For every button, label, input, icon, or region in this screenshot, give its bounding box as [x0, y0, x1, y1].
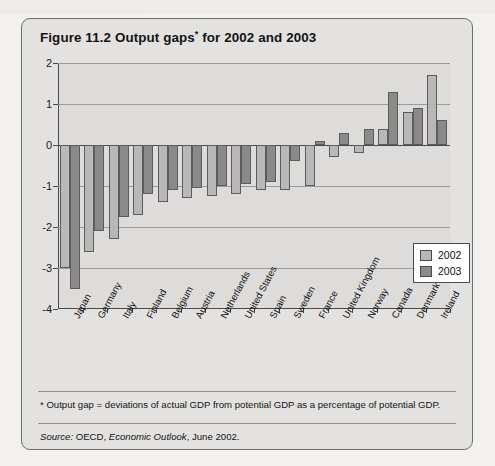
bar-2002-denmark [403, 112, 413, 145]
bar-2002-united-states [231, 145, 241, 194]
bar-2003-canada [388, 92, 398, 145]
bar-2002-sweden [280, 145, 290, 190]
y-axis-tick-mark [53, 104, 58, 105]
bar-2002-canada [378, 129, 388, 145]
figure-title-rest: for 2002 and 2003 [198, 30, 316, 45]
bar-2002-france [305, 145, 315, 186]
figure-title: Figure 11.2 Output gaps* for 2002 and 20… [40, 29, 316, 45]
bar-2003-germany [94, 145, 104, 231]
bar-2002-united-kingdom [329, 145, 339, 157]
bar-2003-france [315, 141, 325, 145]
bar-2002-belgium [158, 145, 168, 202]
legend-item: 2002 [420, 249, 461, 261]
bar-2002-germany [84, 145, 94, 252]
figure-source: Source: OECD, Economic Outlook, June 200… [40, 431, 456, 442]
bar-2003-italy [119, 145, 129, 217]
bar-2003-united-kingdom [339, 133, 349, 145]
bar-2003-ireland [437, 120, 447, 145]
bar-2003-united-states [241, 145, 251, 184]
source-label: Source: [40, 431, 73, 442]
bar-2002-finland [133, 145, 143, 215]
y-axis-tick-mark [53, 63, 58, 64]
legend-item: 2003 [420, 265, 461, 277]
bar-2002-norway [354, 145, 364, 153]
bar-2003-belgium [168, 145, 178, 190]
bar-2003-austria [192, 145, 202, 188]
bar-2002-netherlands [207, 145, 217, 196]
bar-2002-ireland [427, 75, 437, 145]
y-axis-tick-label: -4 [26, 303, 52, 315]
bar-2003-finland [143, 145, 153, 194]
bar-2003-netherlands [217, 145, 227, 186]
source-publication: Economic Outlook [109, 431, 187, 442]
y-axis-tick-mark [53, 309, 58, 310]
y-axis-tick-mark [53, 145, 58, 146]
legend-label-2003: 2003 [438, 265, 461, 277]
page-bleed [0, 0, 495, 14]
y-axis-tick-mark [53, 268, 58, 269]
bar-2003-spain [266, 145, 276, 182]
y-axis-tick-label: -2 [26, 221, 52, 233]
bar-2003-denmark [413, 108, 423, 145]
figure-panel: Figure 11.2 Output gaps* for 2002 and 20… [21, 18, 473, 450]
bar-2002-austria [182, 145, 192, 198]
y-axis-tick-mark [53, 186, 58, 187]
figure-title-main: Figure 11.2 Output gaps [40, 30, 195, 45]
bar-2003-norway [364, 129, 374, 145]
divider-above-footnote [38, 391, 456, 392]
y-axis-tick-label: 1 [26, 98, 52, 110]
legend-swatch-2002 [420, 250, 432, 261]
y-axis-tick-label: 0 [26, 139, 52, 151]
gridline [58, 268, 450, 269]
legend-swatch-2003 [420, 266, 432, 277]
chart-plot-area: 210-1-2-3-4 [58, 63, 450, 309]
source-tail: , June 2002. [187, 431, 240, 442]
bar-2002-japan [60, 145, 70, 268]
legend-label-2002: 2002 [438, 249, 461, 261]
y-axis-tick-label: -1 [26, 180, 52, 192]
figure-footnote: * Output gap = deviations of actual GDP … [40, 399, 456, 411]
bar-2003-japan [70, 145, 80, 289]
divider-above-source [38, 423, 456, 424]
source-text: OECD, [73, 431, 109, 442]
y-axis-tick-label: 2 [26, 57, 52, 69]
bar-2002-italy [109, 145, 119, 239]
y-axis-tick-mark [53, 227, 58, 228]
bar-2002-spain [256, 145, 266, 190]
bar-2003-sweden [290, 145, 300, 161]
chart-legend: 2002 2003 [413, 243, 470, 283]
y-axis-tick-label: -3 [26, 262, 52, 274]
gridline [58, 63, 450, 64]
